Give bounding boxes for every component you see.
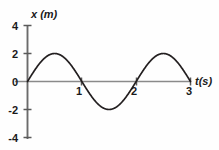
x-tick-label-2: 2 <box>131 85 137 97</box>
x-axis-title: t(s) <box>195 75 212 87</box>
y-tick-label-0: 0 <box>12 76 18 88</box>
chart-figure: 4 2 0 -2 -4 1 2 3 x (m) t(s) <box>0 0 219 150</box>
y-tick-label-4: 4 <box>12 20 19 32</box>
x-tick-label-1: 1 <box>76 85 82 97</box>
y-tick-label-2: 2 <box>12 48 18 60</box>
y-tick-label-neg4: -4 <box>8 132 19 144</box>
y-tick-label-neg2: -2 <box>8 104 18 116</box>
x-tick-label-3: 3 <box>186 85 192 97</box>
sine-wave-plot: 4 2 0 -2 -4 1 2 3 x (m) t(s) <box>0 0 219 150</box>
y-axis-title: x (m) <box>30 8 58 20</box>
